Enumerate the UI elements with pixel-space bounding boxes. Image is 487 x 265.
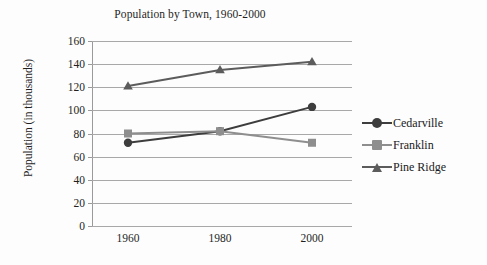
legend-item-franklin[interactable]: Franklin (362, 134, 486, 156)
y-tick-label: 120 (68, 81, 85, 93)
chart-title: Population by Town, 1960-2000 (0, 8, 380, 20)
data-point-marker (216, 127, 224, 135)
y-tick-label: 20 (74, 197, 86, 209)
legend-marker-square-icon (372, 140, 382, 150)
data-point-marker (124, 139, 132, 147)
data-point-marker (308, 103, 316, 111)
series-line (128, 107, 312, 143)
legend-item-cedarville[interactable]: Cedarville (362, 112, 486, 134)
plot-area: 020406080100120140160 196019802000 (92, 41, 352, 226)
y-tick-label: 80 (74, 128, 86, 140)
legend-swatch (362, 160, 392, 174)
y-axis-label: Population (in thousands) (22, 28, 34, 208)
y-tick-label: 40 (74, 174, 86, 186)
y-tick-mark (88, 226, 92, 227)
x-tick-label: 2000 (301, 232, 324, 244)
data-point-marker (124, 130, 132, 138)
chart-page: Population by Town, 1960-2000 Population… (0, 0, 487, 265)
data-point-marker (308, 139, 316, 147)
y-tick-label: 0 (79, 220, 85, 232)
legend-marker-circle-icon (372, 118, 382, 128)
y-tick-label: 140 (68, 58, 85, 70)
legend-swatch (362, 138, 392, 152)
legend-label: Franklin (393, 138, 434, 153)
series-franklin (124, 127, 316, 147)
y-tick-label: 100 (68, 104, 85, 116)
legend-marker-triangle-icon (372, 163, 382, 172)
legend-item-pine-ridge[interactable]: Pine Ridge (362, 156, 486, 178)
series-layer (92, 41, 352, 226)
x-tick-label: 1960 (117, 232, 140, 244)
x-tick-label: 1980 (209, 232, 232, 244)
chart-legend: CedarvilleFranklinPine Ridge (362, 112, 486, 178)
legend-label: Cedarville (393, 116, 443, 131)
y-tick-label: 60 (74, 151, 86, 163)
series-pine-ridge (123, 57, 317, 89)
y-tick-label: 160 (68, 35, 85, 47)
gridline (92, 226, 352, 227)
legend-label: Pine Ridge (393, 160, 446, 175)
legend-swatch (362, 116, 392, 130)
